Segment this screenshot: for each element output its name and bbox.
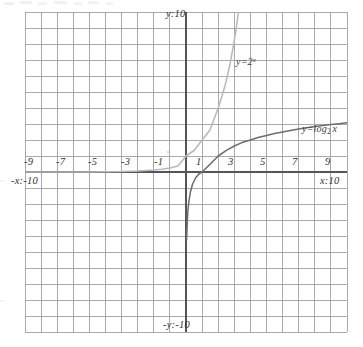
logarithm-curve-label-subscript: 2 [327,127,331,136]
x-tick-label-1: 1 [196,157,201,168]
axis-end-label-right-text: x:10 [320,175,339,186]
logarithm-curve-label: y=log2x [302,124,337,135]
x-tick-label-9: 9 [325,157,330,168]
axis-end-label-bottom: -y:-10 [163,320,190,331]
x-tick-label-neg7: -7 [56,157,65,168]
paper-background [0,0,363,347]
axis-end-label-right: x:10 [320,176,339,187]
x-tick-label-neg1: -1 [154,157,163,168]
stray-mark [167,151,169,153]
x-tick-label-neg3: -3 [121,157,130,168]
axis-end-label-left-text: -x:-10 [11,175,38,186]
x-tick-label-neg9: -9 [24,157,33,168]
x-tick-label-neg5: -5 [88,157,97,168]
axis-end-label-top: y:10 [166,9,185,20]
coordinate-plane-svg [0,0,363,347]
exponential-curve-label-exponent: x [253,56,256,64]
x-tick-label-5: 5 [260,157,265,168]
axis-end-label-bottom-text: -y:-10 [163,319,190,330]
x-tick-label-3: 3 [228,157,233,168]
exponential-curve-label: y=2x [236,57,256,67]
x-tick-label-7: 7 [292,157,297,168]
logarithm-curve-label-base: y=log [302,123,327,134]
exponential-curve-label-base: y=2 [236,56,253,67]
axis-end-label-left: -x:-10 [11,176,38,187]
logarithm-curve-label-variable: x [332,123,337,134]
graph-figure: y:10 -y:-10 -x:-10 x:10 -9 -7 -5 -3 -1 1… [0,0,363,347]
axis-end-label-top-text: y:10 [166,8,185,19]
